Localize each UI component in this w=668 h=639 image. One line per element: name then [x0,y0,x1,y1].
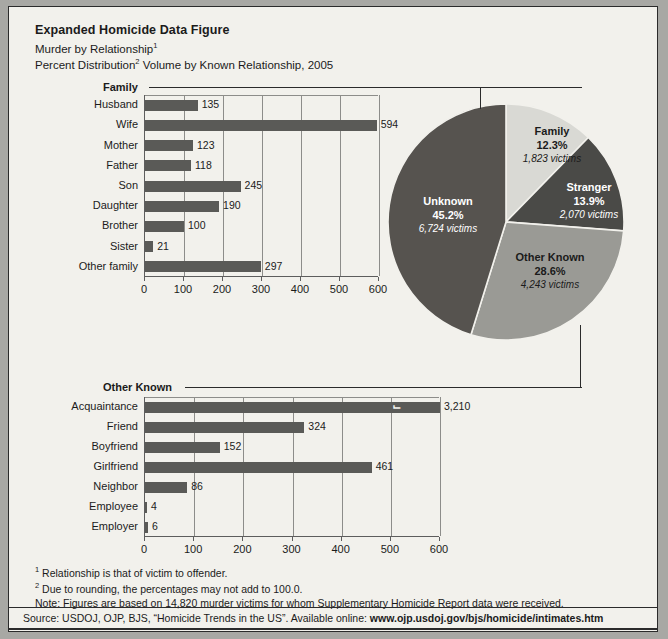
bar-value-label: 190 [223,199,241,211]
pie-slice-percent: 28.6% [495,265,605,279]
source-url[interactable]: www.ojp.usdoj.gov/bjs/homicide/intimates… [370,612,604,624]
family-leader-vertical [480,87,481,109]
bar [145,522,148,533]
x-tick-label: 400 [321,543,361,555]
pie-slice-name: Family [497,125,607,139]
x-tick-label: 300 [272,543,312,555]
footnote-2-text: Due to rounding, the percentages may not… [39,582,302,594]
x-tick-mark [439,537,440,541]
pie-slice-label: Unknown45.2%6,724 victims [393,195,503,235]
x-tick-mark [378,277,379,281]
bar-value-label: 86 [191,480,203,492]
x-tick-mark [341,537,342,541]
category-label: Friend [24,420,138,432]
x-tick-mark [144,277,145,281]
source-divider-top [9,607,657,608]
bar-value-label: 21 [157,240,169,252]
bar [145,502,147,513]
category-label: Employee [24,500,138,512]
bar-value-label: 152 [224,440,242,452]
footnote-2: 2 Due to rounding, the percentages may n… [35,581,635,597]
bar [145,241,153,252]
x-tick-label: 100 [173,543,213,555]
bar-value-label: 245 [245,179,263,191]
x-tick-label: 500 [370,543,410,555]
bar [145,261,261,272]
bar [145,201,219,212]
category-label: Sister [24,240,138,252]
x-tick-label: 0 [124,543,164,555]
other-known-chart-title: Other Known [103,381,172,393]
subtitle-murder-by-relationship: Murder by Relationship1 [35,41,157,55]
bar [145,221,184,232]
bar-value-label: 297 [265,260,283,272]
bar-value-label: 135 [202,98,220,110]
pie-chart: Family12.3%1,823 victimsStranger13.9%2,0… [387,103,637,339]
pie-slice-percent: 12.3% [497,139,607,153]
category-label: Other family [24,260,138,272]
bar [145,442,220,453]
category-label: Boyfriend [24,440,138,452]
subtitle-percent-distribution: Percent Distribution2 Volume by Known Re… [35,57,333,71]
x-tick-mark [242,537,243,541]
bar-value-label: 461 [376,460,394,472]
pie-slice-name: Stranger [539,181,639,195]
pie-slice-label: Family12.3%1,823 victims [497,125,607,165]
pie-slice-victims: 1,823 victims [497,153,607,166]
axis-break-mark: ⨽ [393,399,401,410]
subtitle-2-text-post: Volume by Known Relationship, 2005 [140,59,334,71]
footnote-note: Note: Figures are based on 14,820 murder… [35,596,635,611]
x-tick-mark [339,277,340,281]
x-tick-mark [390,537,391,541]
bar-value-label: 324 [308,420,326,432]
category-label: Husband [24,98,138,110]
subtitle-1-footnote-marker: 1 [153,41,157,50]
bar-value-label: 6 [152,520,158,532]
footnotes: 1 Relationship is that of victim to offe… [35,565,635,612]
other-known-leader-horizontal [279,387,582,388]
bar [145,120,377,131]
source-divider-bottom [9,628,657,630]
x-tick-mark [261,277,262,281]
gridline [440,397,441,536]
subtitle-2-text-pre: Percent Distribution [35,59,135,71]
x-tick-mark [222,277,223,281]
category-label: Brother [24,219,138,231]
x-tick-mark [300,277,301,281]
pie-slice-percent: 13.9% [539,195,639,209]
pie-slice-percent: 45.2% [393,209,503,223]
family-chart-title: Family [103,81,138,93]
category-label: Wife [24,118,138,130]
pie-slice-name: Other Known [495,251,605,265]
footnote-1-text: Relationship is that of victim to offend… [39,567,227,579]
bar-value-label: 4 [151,500,157,512]
x-tick-label: 200 [222,543,262,555]
x-tick-label: 600 [419,543,459,555]
x-tick-label: 500 [319,283,359,295]
category-label: Neighbor [24,480,138,492]
bar [145,160,191,171]
pie-slice-victims: 6,724 victims [393,223,503,236]
bar-value-label: 3,210 [444,400,470,412]
bar [145,140,193,151]
other-known-leader-vertical [580,325,581,387]
x-tick-label: 400 [280,283,320,295]
category-label: Employer [24,520,138,532]
source-line: Source: USDOJ, OJP, BJS, “Homicide Trend… [23,612,603,624]
subtitle-1-text: Murder by Relationship [35,43,153,55]
bar-value-label: 123 [197,139,215,151]
bar-value-label: 118 [195,159,212,171]
footnote-1: 1 Relationship is that of victim to offe… [35,565,635,581]
category-label: Father [24,159,138,171]
pie-slice-victims: 4,243 victims [495,279,605,292]
bar [145,422,304,433]
category-label: Son [24,179,138,191]
bar [145,462,372,473]
family-bracket-line [149,87,378,88]
pie-slice-label: Stranger13.9%2,070 victims [539,181,639,221]
source-prefix: Source: USDOJ, OJP, BJS, “Homicide Trend… [23,612,370,624]
pie-slice-victims: 2,070 victims [539,209,639,222]
x-tick-mark [193,537,194,541]
x-tick-mark [292,537,293,541]
category-label: Mother [24,139,138,151]
